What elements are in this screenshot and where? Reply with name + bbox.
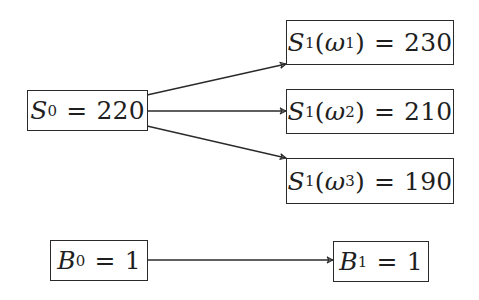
close-paren: )	[355, 97, 365, 126]
node-symbol: S	[288, 28, 305, 57]
edge-s0-to-s1w3	[147, 126, 286, 158]
open-paren: (	[315, 167, 325, 196]
edge-s0-to-s1w1	[147, 64, 286, 95]
node-symbol: B	[57, 246, 76, 275]
node-symbol: S	[30, 96, 47, 125]
node-value: 230	[404, 28, 452, 57]
equals-sign: =	[95, 246, 116, 275]
node-symbol: S	[288, 167, 305, 196]
node-s1-omega3: S1(ω3) = 190	[286, 158, 454, 204]
node-s1-omega1: S1(ω1) = 230	[286, 20, 454, 65]
equals-sign: =	[374, 28, 395, 57]
omega-symbol: ω	[325, 28, 346, 57]
open-paren: (	[315, 97, 325, 126]
node-value: 220	[96, 96, 144, 125]
node-value: 1	[125, 246, 141, 275]
node-s1-omega2: S1(ω2) = 210	[286, 89, 454, 134]
close-paren: )	[355, 167, 365, 196]
node-symbol: S	[288, 97, 305, 126]
diagram-canvas: S0 = 220 S1(ω1) = 230 S1(ω2) = 210 S1(ω3…	[0, 0, 479, 300]
node-value: 1	[407, 247, 423, 276]
omega-symbol: ω	[325, 97, 346, 126]
node-s0: S0 = 220	[27, 90, 148, 131]
open-paren: (	[315, 28, 325, 57]
omega-symbol: ω	[325, 167, 346, 196]
equals-sign: =	[66, 96, 87, 125]
equals-sign: =	[374, 97, 395, 126]
node-symbol: B	[339, 247, 358, 276]
close-paren: )	[355, 28, 365, 57]
node-b1: B1 = 1	[333, 241, 429, 282]
node-value: 190	[404, 167, 452, 196]
node-b0: B0 = 1	[50, 240, 148, 281]
equals-sign: =	[374, 167, 395, 196]
equals-sign: =	[377, 247, 398, 276]
node-value: 210	[404, 97, 452, 126]
